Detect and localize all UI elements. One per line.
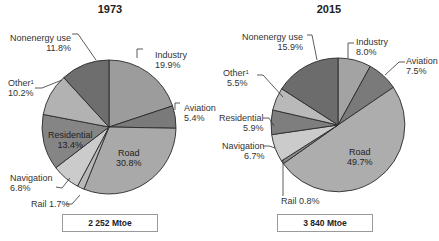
label-aviation-1973: Aviation 5.4% (184, 103, 216, 123)
label-aviation-2015: Aviation 7.5% (406, 56, 438, 76)
chart-2015: 2015 Nonenergy use 15.9% Industry 8.0% O… (219, 0, 439, 241)
total-2015: 3 840 Mtoe (277, 214, 373, 232)
chart-1973: 1973 Nonenergy use 11.8% Industry 19.9% … (0, 0, 220, 241)
label-rail-1973: Rail 1.7% (31, 199, 70, 209)
chart-title-2015: 2015 (219, 3, 439, 15)
label-road-1973: Road 30.8% (116, 148, 142, 168)
label-navigation-1973: Navigation 6.8% (10, 173, 53, 193)
label-road-2015: Road 49.7% (347, 147, 373, 167)
label-other-2015: Other1 5.5% (223, 68, 249, 88)
label-residential-2015: Residential 5.9% (219, 113, 264, 133)
label-other-1973: Other1 10.2% (8, 78, 34, 98)
label-navigation-2015: Navigation 6.7% (222, 141, 265, 161)
label-nonenergy-1973: Nonenergy use 11.8% (10, 33, 71, 53)
label-industry-1973: Industry 19.9% (155, 50, 187, 70)
label-rail-2015: Rail 0.8% (281, 196, 320, 206)
total-1973: 2 252 Mtoe (62, 214, 158, 232)
label-nonenergy-2015: Nonenergy use 15.9% (242, 32, 303, 52)
label-residential-1973: Residential 13.4% (48, 130, 93, 150)
label-industry-2015: Industry 8.0% (356, 37, 388, 57)
chart-title-1973: 1973 (0, 3, 220, 15)
